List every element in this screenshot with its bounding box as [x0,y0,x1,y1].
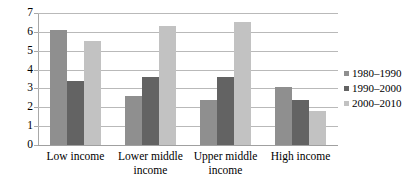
y-tick-label: 4 [7,64,33,76]
legend-item-2000-2010: 2000–2010 [344,96,418,111]
x-label-low-income: Low income [38,150,113,177]
y-tick-label: 6 [7,26,33,38]
bar-1990-2000 [67,81,84,145]
y-tick-label: 5 [7,45,33,57]
bar-2000-2010 [159,26,176,145]
y-tick-label: 3 [7,82,33,94]
x-label-lower-middle-income: Lower middle income [113,150,188,177]
legend-swatch-icon [344,71,349,76]
bar-groups [38,13,338,145]
bar-1980-1990 [200,100,217,145]
legend-item-1990-2000: 1990–2000 [344,81,418,96]
plot-area [38,13,338,145]
legend-label: 1990–2000 [352,83,402,94]
bar-1980-1990 [275,87,292,145]
bar-group-upper-middle-income [188,13,263,145]
y-tick-label: 2 [7,101,33,113]
y-axis: 7 6 5 4 3 2 1 0 [0,13,33,145]
bar-group-high-income [263,13,338,145]
legend-swatch-icon [344,101,349,106]
x-axis-labels: Low income Lower middle income Upper mid… [38,150,338,177]
legend-swatch-icon [344,86,349,91]
y-tick-label: 7 [7,7,33,19]
bar-2000-2010 [309,111,326,145]
legend-label: 2000–2010 [352,98,402,109]
legend-item-1980-1990: 1980–1990 [344,66,418,81]
x-axis-line [38,145,338,146]
bar-1990-2000 [217,77,234,145]
y-tick-label: 0 [7,139,33,151]
bar-2000-2010 [234,22,251,145]
x-label-upper-middle-income: Upper middle income [188,150,263,177]
bar-1990-2000 [142,77,159,145]
legend: 1980–1990 1990–2000 2000–2010 [344,66,418,111]
legend-label: 1980–1990 [352,68,402,79]
x-label-high-income: High income [263,150,338,177]
bar-1980-1990 [50,30,67,145]
bar-chart: 7 6 5 4 3 2 1 0 [0,0,420,192]
bar-2000-2010 [84,41,101,145]
bar-group-low-income [38,13,113,145]
y-tick-label: 1 [7,120,33,132]
bar-1980-1990 [125,96,142,145]
bar-1990-2000 [292,100,309,145]
bar-group-lower-middle-income [113,13,188,145]
